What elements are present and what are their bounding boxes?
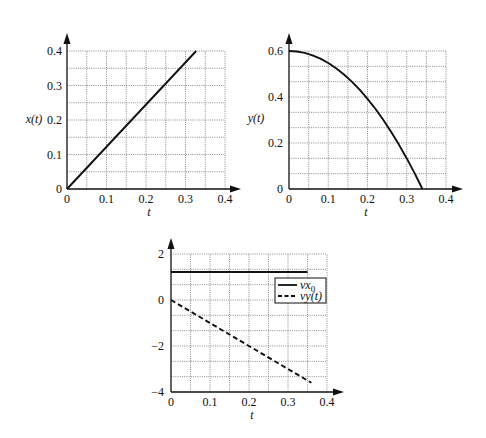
x-tick-label: 0.2	[139, 192, 154, 206]
y-axis-arrow-icon	[286, 33, 293, 44]
x-tick-label: 0.3	[178, 192, 193, 206]
grid	[67, 51, 225, 189]
y-tick-label: 0	[56, 182, 62, 196]
x-axis-arrow-icon	[452, 186, 463, 193]
y-tick-label: 0.2	[47, 113, 62, 127]
y-axis-arrow-icon	[168, 238, 175, 249]
y-tick-label: 0.2	[268, 136, 283, 150]
x-axis-label: t	[147, 205, 151, 219]
grid	[171, 254, 327, 392]
y-tick-label: −2	[151, 339, 164, 353]
x-tick-label: 0.3	[399, 192, 414, 206]
series-line	[171, 300, 311, 383]
y-tick-label: 0.3	[47, 79, 62, 93]
x-tick-label: 0	[168, 395, 174, 409]
x-axis-arrow-icon	[333, 389, 344, 396]
x-tick-label: 0	[286, 192, 292, 206]
chart-velocity: 00.10.20.30.4−4−202tvx0vy(t)	[151, 238, 344, 422]
y-tick-label: 0.4	[47, 44, 62, 58]
x-tick-label: 0.3	[281, 395, 296, 409]
x-tick-label: 0.4	[320, 395, 335, 409]
y-tick-label: 0.1	[47, 148, 62, 162]
chart-x-of-t: 00.10.20.30.400.10.20.30.4tx(t)	[25, 33, 241, 219]
x-tick-label: 0.4	[218, 192, 233, 206]
legend: vx0vy(t)	[275, 278, 326, 303]
legend-text: vy(t)	[300, 289, 322, 303]
y-tick-label: 0.4	[268, 90, 283, 104]
x-tick-label: 0.2	[242, 395, 257, 409]
x-tick-label: 0	[64, 192, 70, 206]
x-tick-label: 0.1	[321, 192, 336, 206]
y-axis-label: y(t)	[247, 111, 265, 125]
grid	[289, 51, 446, 189]
legend-entry-label: vy(t)	[300, 289, 322, 303]
x-tick-label: 0.1	[203, 395, 218, 409]
y-tick-label: 0.6	[268, 44, 283, 58]
chart-y-of-t: 00.10.20.30.400.20.40.6ty(t)	[247, 33, 463, 219]
y-tick-label: 0	[158, 293, 164, 307]
y-axis-label: x(t)	[25, 112, 43, 126]
x-tick-label: 0.2	[360, 192, 375, 206]
y-tick-label: 0	[277, 182, 283, 196]
x-tick-label: 0.1	[99, 192, 114, 206]
x-axis-label: t	[250, 408, 254, 422]
y-tick-label: 2	[158, 247, 164, 261]
x-tick-label: 0.4	[439, 192, 454, 206]
y-axis-arrow-icon	[64, 33, 71, 44]
figure: 00.10.20.30.400.10.20.30.4tx(t)00.10.20.…	[0, 0, 486, 438]
y-tick-label: −4	[151, 385, 164, 399]
x-axis-label: t	[364, 205, 368, 219]
